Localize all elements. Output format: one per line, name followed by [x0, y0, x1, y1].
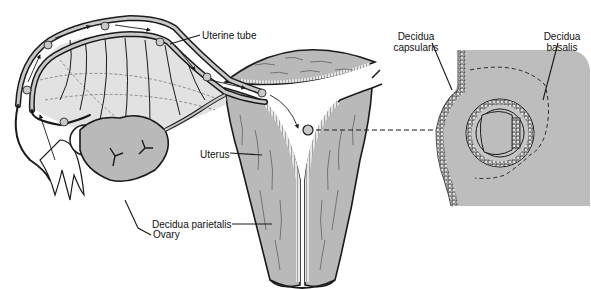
label-decidua-capsularis-line2: capsularis — [386, 42, 446, 53]
label-decidua-basalis-line2: basalis — [540, 42, 584, 53]
label-decidua-capsularis-line1: Decidua — [386, 31, 446, 42]
label-decidua-capsularis: Decidua capsularis — [386, 31, 446, 53]
uterus-right-wall — [305, 70, 382, 287]
implantation-inset — [436, 50, 590, 206]
uterus-left-wall — [225, 88, 300, 287]
uterine-fundus — [225, 50, 375, 85]
label-decidua-basalis-line1: Decidua — [540, 31, 584, 42]
implantation-diagram — [0, 0, 591, 289]
label-uterus: Uterus — [200, 149, 229, 160]
label-ovary: Ovary — [153, 229, 180, 240]
label-decidua-basalis: Decidua basalis — [540, 31, 584, 53]
label-uterine-tube: Uterine tube — [202, 30, 256, 41]
label-decidua-parietalis: Decidua parietalis — [152, 219, 232, 230]
